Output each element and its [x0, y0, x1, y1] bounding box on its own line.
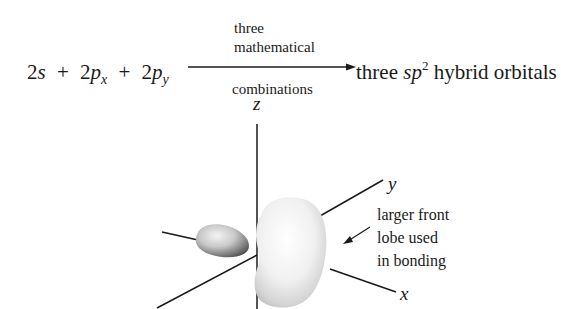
term3-coef: 2 [142, 60, 153, 84]
equation-rhs: three sp2 hybrid orbitals [356, 62, 557, 83]
arrow-label-mathematical: mathematical [234, 40, 315, 55]
z-axis-label: z [253, 94, 260, 113]
term2-var: p [91, 60, 102, 84]
annotation-line-3: in bonding [377, 253, 446, 269]
y-axis-back [157, 255, 257, 308]
reaction-arrow [188, 64, 356, 71]
plus-1: + [57, 60, 69, 84]
y-axis-label: y [388, 174, 396, 193]
term3-var: p [152, 60, 163, 84]
rhs-rest: hybrid orbitals [434, 60, 557, 84]
y-axis [320, 180, 383, 216]
large-front-lobe [255, 197, 327, 307]
annotation-line-1: larger front [377, 207, 449, 223]
term1-coef: 2 [27, 60, 38, 84]
x-axis-back [162, 232, 198, 240]
term2-sub: x [101, 72, 107, 87]
arrow-label-three: three [234, 21, 264, 36]
annotation-line-2: lobe used [377, 230, 438, 246]
rhs-three: three [356, 60, 398, 84]
equation-lhs: 2s + 2px + 2py [27, 62, 169, 83]
annotation-arrow [343, 227, 370, 244]
x-axis [330, 269, 396, 292]
term3-sub: y [163, 72, 169, 87]
arrow-label-combinations: combinations [232, 82, 313, 97]
term2-coef: 2 [80, 60, 91, 84]
term1-var: s [38, 60, 46, 84]
small-back-lobe [196, 224, 249, 257]
rhs-sp: sp [403, 60, 422, 84]
rhs-sup: 2 [422, 58, 429, 73]
x-axis-label: x [400, 284, 408, 303]
plus-2: + [119, 60, 131, 84]
